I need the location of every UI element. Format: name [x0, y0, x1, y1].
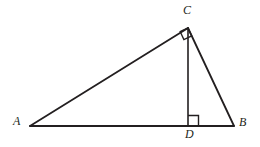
- geometry-figure: A B C D: [0, 0, 260, 147]
- vertex-label-d: D: [185, 128, 194, 140]
- figure-canvas: [0, 0, 260, 147]
- right-angle-mark-at-c: [180, 28, 192, 40]
- vertex-label-b: B: [239, 116, 246, 128]
- vertex-label-a: A: [13, 115, 20, 127]
- segment-cb: [188, 28, 234, 126]
- segment-ac: [30, 28, 188, 126]
- right-angle-mark-at-d: [188, 116, 199, 127]
- vertex-label-c: C: [183, 4, 191, 16]
